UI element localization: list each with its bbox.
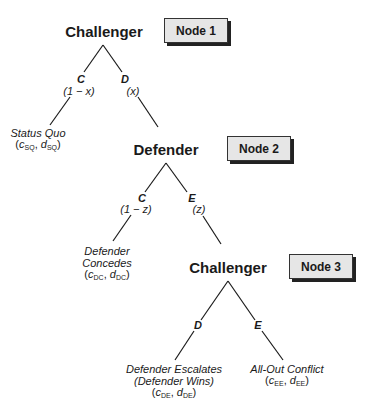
tree-edges	[0, 0, 372, 412]
leaf-defender-concedes-payoff: (cDC, dDC)	[84, 269, 129, 281]
edge-n1-c-lower	[50, 97, 70, 125]
node3-move-d: D	[194, 320, 202, 331]
node3-box: Node 3	[289, 254, 353, 279]
node3-box-label: Node 3	[301, 260, 341, 274]
edge-n2-c-lower	[113, 215, 131, 241]
edge-n2-c-upper	[145, 163, 166, 192]
node3-move-e: E	[254, 320, 261, 331]
edge-n2-e-lower	[203, 216, 221, 244]
node2-prob-c: (1 − z)	[120, 204, 151, 215]
edge-n3-d-upper	[201, 281, 228, 320]
node1-prob-c: (1 − x)	[63, 86, 94, 97]
edge-n1-c-upper	[84, 45, 103, 72]
leaf-defender-escalates-line2: (Defender Wins)	[134, 376, 214, 387]
node2-box-label: Node 2	[239, 142, 279, 156]
node2-player-label: Defender	[133, 142, 198, 157]
leaf-all-out-conflict-label: All-Out Conflict	[250, 364, 323, 375]
leaf-defender-escalates-payoff: (cDE, dDE)	[152, 387, 197, 399]
edge-n3-e-upper	[228, 281, 255, 320]
node1-prob-d: (x)	[127, 86, 140, 97]
node1-move-d: D	[121, 74, 129, 85]
edge-n3-d-lower	[175, 331, 194, 360]
node1-move-c: C	[77, 74, 85, 85]
edge-n1-d-upper	[103, 45, 122, 72]
node1-box-label: Node 1	[176, 24, 216, 38]
leaf-status-quo-label: Status Quo	[10, 128, 65, 139]
node3-player-label: Challenger	[189, 260, 267, 275]
node1-box: Node 1	[164, 18, 228, 43]
node2-prob-e: (z)	[193, 204, 206, 215]
leaf-all-out-conflict-payoff: (cEE, dEE)	[265, 375, 309, 387]
leaf-defender-concedes-line2: Concedes	[82, 258, 132, 269]
edge-n3-e-lower	[262, 331, 283, 360]
edge-n1-d-lower	[138, 97, 158, 127]
game-tree-diagram: Challenger Node 1 C (1 − x) D (x) Status…	[0, 0, 372, 412]
node1-player-label: Challenger	[65, 24, 143, 39]
node2-box: Node 2	[227, 136, 291, 161]
leaf-defender-concedes-line1: Defender	[84, 246, 129, 257]
leaf-defender-escalates-line1: Defender Escalates	[126, 364, 222, 375]
edge-n2-e-upper	[166, 163, 187, 192]
leaf-status-quo-payoff: (cSQ, dSQ)	[15, 139, 60, 151]
